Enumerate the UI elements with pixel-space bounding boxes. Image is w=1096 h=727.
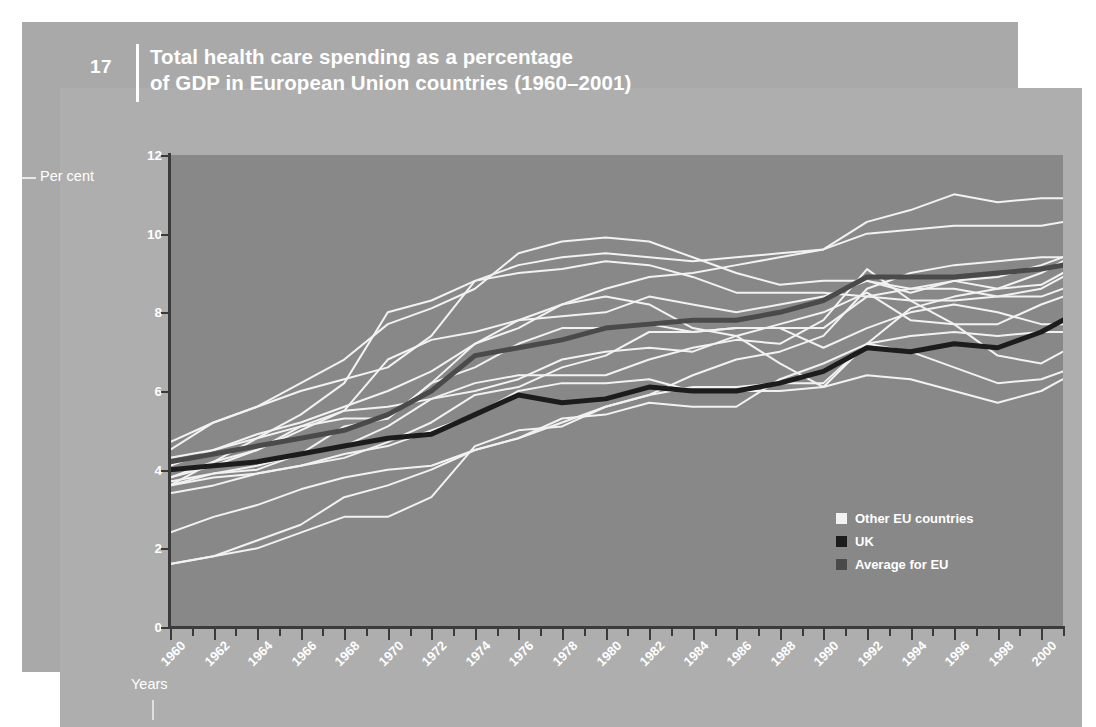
- series-line: [170, 265, 1063, 462]
- legend-swatch: [836, 513, 847, 524]
- x-tick-mark: [998, 629, 1000, 640]
- x-tick-mark: [780, 629, 782, 640]
- x-tick-mark: [976, 629, 978, 636]
- x-tick-mark: [715, 629, 717, 636]
- x-tick-mark: [823, 629, 825, 640]
- x-tick-mark: [736, 629, 738, 640]
- y-axis-tick-labels: 024681012: [130, 155, 162, 627]
- x-tick-mark: [671, 629, 673, 636]
- x-tick-mark: [497, 629, 499, 636]
- page-title: Total health care spending as a percenta…: [150, 44, 990, 96]
- x-tick-mark: [1041, 629, 1043, 640]
- x-tick-mark: [540, 629, 542, 636]
- y-tick-mark: [161, 234, 170, 236]
- chart-legend: Other EU countriesUKAverage for EU: [836, 508, 973, 577]
- x-tick-mark: [758, 629, 760, 636]
- x-tick-mark: [410, 629, 412, 636]
- x-tick-mark: [932, 629, 934, 636]
- x-tick-mark: [322, 629, 324, 636]
- y-tick-mark: [161, 548, 170, 550]
- x-tick-mark: [911, 629, 913, 640]
- legend-item: Average for EU: [836, 554, 973, 574]
- y-tick-mark: [161, 391, 170, 393]
- x-tick-mark: [845, 629, 847, 636]
- legend-label: UK: [855, 534, 874, 549]
- legend-swatch: [836, 536, 847, 547]
- x-tick-mark: [562, 629, 564, 640]
- x-tick-mark: [649, 629, 651, 640]
- x-tick-mark: [1019, 629, 1021, 636]
- series-line: [170, 320, 1063, 469]
- x-tick-mark: [214, 629, 216, 640]
- x-tick-mark: [584, 629, 586, 636]
- chart-header: 17 Total health care spending as a perce…: [60, 40, 1020, 100]
- title-line-2: of GDP in European Union countries (1960…: [150, 70, 990, 96]
- legend-label: Other EU countries: [855, 511, 973, 526]
- y-tick-mark: [161, 155, 170, 157]
- x-axis-label-tick: [152, 700, 154, 720]
- x-tick-mark: [344, 629, 346, 640]
- series-line: [170, 293, 1063, 486]
- series-line: [170, 277, 1063, 478]
- x-tick-mark: [693, 629, 695, 640]
- x-tick-mark: [170, 629, 172, 640]
- legend-item: Other EU countries: [836, 508, 973, 528]
- x-tick-mark: [889, 629, 891, 636]
- legend-item: UK: [836, 531, 973, 551]
- x-tick-mark: [388, 629, 390, 640]
- x-tick-mark: [279, 629, 281, 636]
- x-axis-label: Years: [131, 676, 168, 692]
- x-tick-mark: [1063, 629, 1065, 636]
- y-axis-label: Per cent: [40, 168, 94, 184]
- x-tick-mark: [867, 629, 869, 640]
- x-tick-mark: [627, 629, 629, 636]
- series-line: [170, 194, 1063, 442]
- chart-number: 17: [74, 56, 128, 78]
- legend-swatch: [836, 559, 847, 570]
- x-tick-mark: [431, 629, 433, 640]
- y-tick-label: 10: [147, 226, 162, 241]
- x-tick-mark: [954, 629, 956, 640]
- y-tick-label: 12: [147, 148, 162, 163]
- x-tick-mark: [802, 629, 804, 636]
- x-tick-mark: [453, 629, 455, 636]
- series-line: [170, 375, 1063, 485]
- y-axis-label-tick: [22, 177, 36, 179]
- y-tick-mark: [161, 470, 170, 472]
- legend-label: Average for EU: [855, 557, 948, 572]
- x-tick-mark: [366, 629, 368, 636]
- x-tick-mark: [192, 629, 194, 636]
- x-tick-mark: [301, 629, 303, 640]
- x-tick-mark: [257, 629, 259, 640]
- title-line-1: Total health care spending as a percenta…: [150, 44, 990, 70]
- x-tick-mark: [606, 629, 608, 640]
- x-tick-mark: [475, 629, 477, 640]
- x-tick-mark: [235, 629, 237, 636]
- x-tick-mark: [518, 629, 520, 640]
- y-tick-mark: [161, 312, 170, 314]
- header-divider: [136, 44, 139, 102]
